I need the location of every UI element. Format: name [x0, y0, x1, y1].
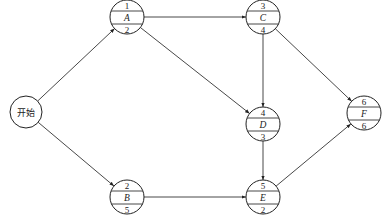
- node-top-value: 5: [261, 181, 266, 191]
- node-top-value: 2: [125, 181, 130, 191]
- node-bottom-value: 4: [261, 25, 266, 35]
- edge-C-to-F: [275, 29, 351, 102]
- edge-E-to-F: [276, 124, 351, 186]
- node-top-value: 6: [362, 97, 367, 107]
- node-top-value: 1: [125, 1, 130, 11]
- start-node: 开始: [10, 96, 42, 128]
- node-D: 4 D 3: [246, 107, 280, 142]
- node-bottom-value: 2: [125, 25, 130, 35]
- node-top-value: 4: [261, 108, 266, 118]
- node-label: D: [259, 120, 267, 130]
- node-A: 1 A 2: [110, 0, 144, 35]
- node-bottom-value: 6: [362, 121, 367, 131]
- node-B: 2 B 5: [110, 180, 144, 215]
- node-label: E: [259, 193, 266, 203]
- node-bottom-value: 2: [261, 205, 266, 215]
- node-E: 5 E 2: [246, 180, 280, 215]
- edge-start-to-A: [38, 29, 115, 101]
- node-top-value: 3: [261, 1, 266, 11]
- nodes-layer: 开始 1 A 2 2 B 5 3 C 4: [10, 0, 381, 215]
- network-diagram: 开始 1 A 2 2 B 5 3 C 4: [0, 0, 387, 222]
- node-label: F: [360, 109, 367, 119]
- edges-layer: [38, 17, 352, 197]
- start-node-label: 开始: [17, 107, 35, 118]
- node-label: B: [124, 193, 130, 203]
- node-F: 6 F 6: [347, 96, 381, 131]
- node-label: A: [123, 13, 130, 23]
- node-C: 3 C 4: [246, 0, 280, 35]
- edge-start-to-B: [38, 122, 114, 186]
- edge-A-to-D: [140, 28, 249, 114]
- node-bottom-value: 3: [261, 132, 266, 142]
- node-bottom-value: 5: [125, 205, 130, 215]
- node-label: C: [260, 13, 267, 23]
